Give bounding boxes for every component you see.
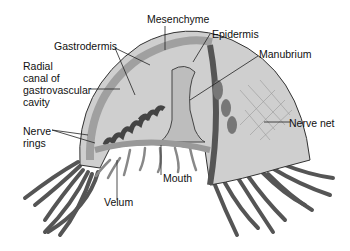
label-manubrium: Manubrium bbox=[259, 48, 312, 60]
label-radial-canal: Radial canal of gastrovascular cavity bbox=[23, 60, 91, 108]
label-velum: Velum bbox=[104, 196, 133, 208]
label-epidermis: Epidermis bbox=[212, 28, 259, 40]
label-nerve-rings: Nerve rings bbox=[23, 125, 51, 149]
label-gastrodermis: Gastrodermis bbox=[54, 40, 117, 52]
velum-ring bbox=[95, 143, 210, 151]
label-nerve-net: Nerve net bbox=[289, 117, 335, 129]
jellyfish-diagram: Mesenchyme Epidermis Gastrodermis Manubr… bbox=[0, 0, 350, 251]
label-mouth: Mouth bbox=[163, 172, 192, 184]
label-mesenchyme: Mesenchyme bbox=[147, 13, 209, 25]
